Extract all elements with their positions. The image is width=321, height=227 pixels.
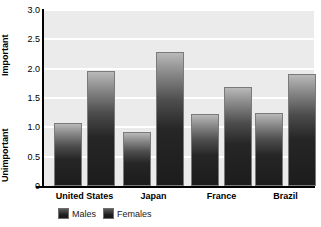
bar-males-united-states xyxy=(54,123,82,186)
bar-males-france xyxy=(191,114,219,186)
bar-group xyxy=(54,10,115,186)
y-axis-tick-labels: 00.51.01.52.02.53.0 xyxy=(18,0,40,227)
bar-group xyxy=(255,10,316,186)
x-axis-tick-labels: United StatesJapanFranceBrazil xyxy=(43,190,314,204)
legend-item-males[interactable]: Males xyxy=(58,208,96,219)
y-axis-top-label: Important xyxy=(0,60,10,78)
y-tick-label: 1.0 xyxy=(27,123,40,132)
y-axis-line xyxy=(42,9,44,187)
bar-group xyxy=(191,10,252,186)
bars-layer xyxy=(43,10,314,186)
legend-label: Males xyxy=(72,209,96,219)
x-axis-line xyxy=(36,186,315,188)
bar-females-united-states xyxy=(87,71,115,186)
x-tick-label: Brazil xyxy=(243,190,321,202)
bar-group xyxy=(123,10,184,186)
bar-males-brazil xyxy=(255,113,283,186)
y-tick-label: 1.5 xyxy=(27,94,40,103)
bar-females-brazil xyxy=(288,74,316,186)
bar-females-france xyxy=(224,87,252,186)
y-axis-bottom-label: Unimportant xyxy=(0,166,10,184)
bar-chart: Important Unimportant 00.51.01.52.02.53.… xyxy=(0,0,321,227)
y-tick-label: 2.5 xyxy=(27,35,40,44)
legend-swatch-icon xyxy=(103,208,114,219)
bar-females-japan xyxy=(156,52,184,186)
y-tick-label: 2.0 xyxy=(27,65,40,74)
y-tick-label: 3.0 xyxy=(27,6,40,15)
legend-item-females[interactable]: Females xyxy=(103,208,152,219)
legend-label: Females xyxy=(117,209,152,219)
legend: MalesFemales xyxy=(58,208,152,219)
y-tick-label: 0.5 xyxy=(27,153,40,162)
legend-swatch-icon xyxy=(58,208,69,219)
bar-males-japan xyxy=(123,132,151,186)
